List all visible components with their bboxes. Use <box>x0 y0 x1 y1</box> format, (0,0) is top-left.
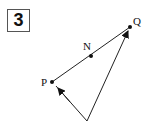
vector-op-arrowhead <box>58 88 70 102</box>
label-p: P <box>41 76 47 88</box>
point-q <box>128 25 132 29</box>
vector-oq <box>87 31 128 121</box>
vector-diagram: Q N P <box>0 0 144 126</box>
point-n <box>89 54 93 58</box>
label-n: N <box>83 40 91 52</box>
label-q: Q <box>133 15 141 27</box>
point-p <box>50 80 54 84</box>
